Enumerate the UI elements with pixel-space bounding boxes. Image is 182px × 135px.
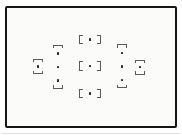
left-column-bottom-cap [53, 85, 64, 88]
far-right-top-cap [135, 60, 146, 63]
af-dot-left-column-top [57, 52, 60, 55]
right-column-bottom-cap [117, 85, 128, 88]
viewfinder-diagram [0, 0, 182, 135]
af-point-top-center-dot [89, 38, 92, 41]
af-point-bottom-center-bracket-right [97, 89, 100, 99]
af-dot-far-left [37, 65, 40, 68]
far-right-bottom-cap [135, 71, 146, 74]
right-column-top-cap [117, 44, 128, 47]
af-dot-left-column-bottom [57, 79, 60, 82]
far-left-bottom-cap [33, 71, 44, 74]
af-point-top-center-bracket-left [79, 35, 82, 45]
af-point-center-bracket-left [79, 61, 82, 71]
af-point-bottom-center-dot [89, 92, 92, 95]
af-dot-right-column-middle [121, 65, 124, 68]
af-point-bottom-center-bracket-left [79, 89, 82, 99]
af-point-center-bracket-right [97, 61, 100, 71]
left-column-top-cap [53, 45, 64, 48]
far-left-top-cap [33, 59, 44, 62]
af-point-top-center-bracket-right [97, 35, 100, 45]
photo-edge-shadow [2, 133, 180, 134]
